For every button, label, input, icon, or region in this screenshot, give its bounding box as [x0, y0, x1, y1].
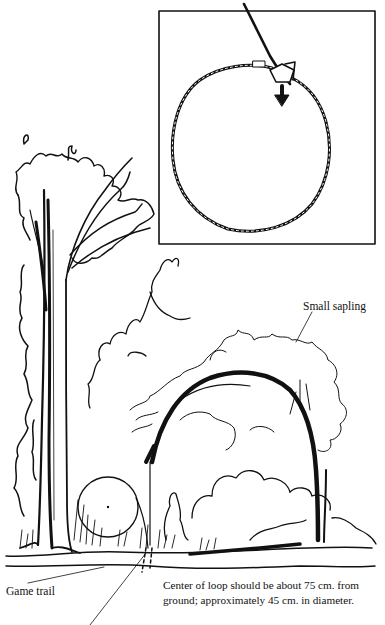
sapling-label: Small sapling — [303, 299, 366, 313]
arrow-down-icon — [275, 86, 289, 106]
bushes — [164, 471, 376, 544]
lock-slider-icon — [270, 62, 295, 82]
game-trail-label: Game trail — [6, 584, 55, 598]
caption-line-1: Center of loop should be about 75 cm. fr… — [163, 578, 359, 593]
background-trees — [88, 259, 190, 408]
bent-sapling — [130, 330, 346, 542]
snare-loop-icon — [172, 61, 329, 231]
caption-line-2: ground; approximately 45 cm. in diameter… — [163, 593, 359, 608]
scene-snare-loop — [78, 446, 154, 548]
game-trail — [6, 544, 375, 572]
figure-caption: Center of loop should be about 75 cm. fr… — [163, 578, 359, 607]
inset-panel — [159, 4, 375, 244]
